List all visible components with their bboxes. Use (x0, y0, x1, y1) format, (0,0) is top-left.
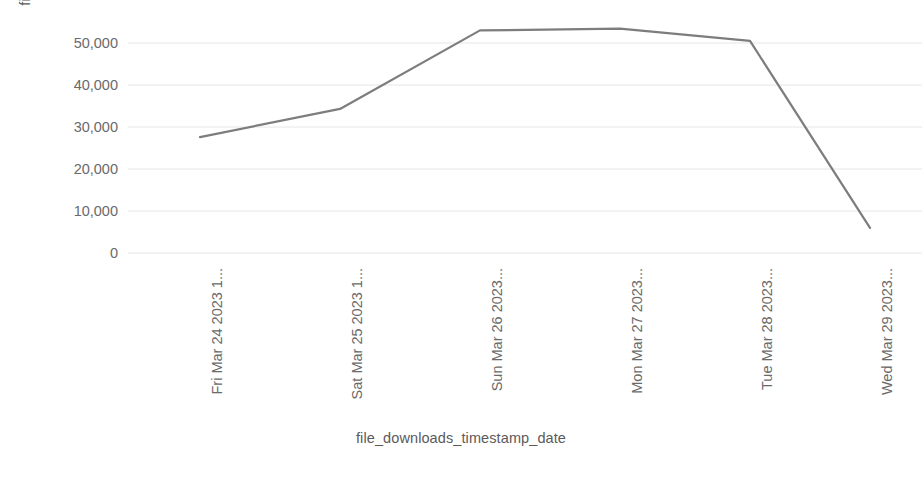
x-tick-label: Wed Mar 29 2023... (877, 268, 897, 428)
x-tick-label: Fri Mar 24 2023 1... (207, 268, 227, 428)
x-tick-label: Mon Mar 27 2023... (627, 268, 647, 428)
x-axis-title: file_downloads_timestamp_date (0, 430, 922, 446)
x-tick-label: Sat Mar 25 2023 1... (347, 268, 367, 428)
x-tick-label: Tue Mar 28 2023... (757, 268, 777, 428)
x-axis-tick-labels: Fri Mar 24 2023 1...Sat Mar 25 2023 1...… (0, 0, 922, 484)
x-tick-label: Sun Mar 26 2023... (487, 268, 507, 428)
line-chart: file_downloads_count 010,00020,00030,000… (0, 0, 922, 484)
